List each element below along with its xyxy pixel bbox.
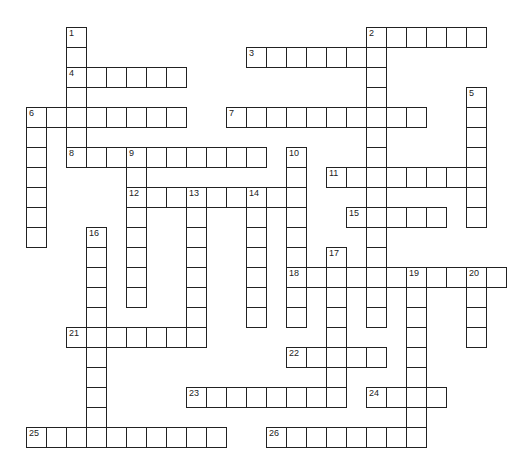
crossword-cell[interactable]: [446, 267, 467, 288]
crossword-cell[interactable]: 3: [246, 47, 267, 68]
crossword-cell[interactable]: [186, 227, 207, 248]
crossword-cell[interactable]: 1: [66, 27, 87, 48]
crossword-cell[interactable]: [26, 187, 47, 208]
crossword-cell[interactable]: [426, 27, 447, 48]
crossword-cell[interactable]: [26, 227, 47, 248]
crossword-cell[interactable]: [446, 27, 467, 48]
crossword-cell[interactable]: [166, 187, 187, 208]
crossword-cell[interactable]: [66, 127, 87, 148]
crossword-cell[interactable]: [366, 67, 387, 88]
crossword-cell[interactable]: [86, 67, 107, 88]
crossword-cell[interactable]: [166, 147, 187, 168]
crossword-cell[interactable]: [466, 307, 487, 328]
crossword-cell[interactable]: [326, 347, 347, 368]
crossword-cell[interactable]: [366, 147, 387, 168]
crossword-cell[interactable]: [86, 307, 107, 328]
crossword-cell[interactable]: [26, 147, 47, 168]
crossword-cell[interactable]: [226, 187, 247, 208]
crossword-cell[interactable]: [326, 387, 347, 408]
crossword-cell[interactable]: 26: [266, 427, 287, 448]
crossword-cell[interactable]: [66, 87, 87, 108]
crossword-cell[interactable]: [186, 247, 207, 268]
crossword-cell[interactable]: [126, 167, 147, 188]
crossword-cell[interactable]: [406, 367, 427, 388]
crossword-cell[interactable]: [446, 167, 467, 188]
crossword-cell[interactable]: [86, 247, 107, 268]
crossword-cell[interactable]: [126, 327, 147, 348]
crossword-cell[interactable]: [246, 247, 267, 268]
crossword-cell[interactable]: [366, 167, 387, 188]
crossword-cell[interactable]: [466, 27, 487, 48]
crossword-cell[interactable]: [66, 427, 87, 448]
crossword-cell[interactable]: [246, 267, 267, 288]
crossword-cell[interactable]: [86, 427, 107, 448]
crossword-cell[interactable]: [186, 327, 207, 348]
crossword-cell[interactable]: [286, 387, 307, 408]
crossword-cell[interactable]: [126, 207, 147, 228]
crossword-cell[interactable]: [406, 307, 427, 328]
crossword-cell[interactable]: [106, 67, 127, 88]
crossword-cell[interactable]: [306, 107, 327, 128]
crossword-cell[interactable]: [146, 427, 167, 448]
crossword-cell[interactable]: [406, 427, 427, 448]
crossword-cell[interactable]: [326, 367, 347, 388]
crossword-cell[interactable]: [406, 287, 427, 308]
crossword-cell[interactable]: 24: [366, 387, 387, 408]
crossword-cell[interactable]: [366, 307, 387, 328]
crossword-cell[interactable]: [346, 47, 367, 68]
crossword-cell[interactable]: [406, 207, 427, 228]
crossword-cell[interactable]: [366, 227, 387, 248]
crossword-cell[interactable]: [186, 207, 207, 228]
crossword-cell[interactable]: [146, 147, 167, 168]
crossword-cell[interactable]: [366, 187, 387, 208]
crossword-cell[interactable]: [426, 167, 447, 188]
crossword-cell[interactable]: [86, 287, 107, 308]
crossword-cell[interactable]: [426, 207, 447, 228]
crossword-cell[interactable]: 9: [126, 147, 147, 168]
crossword-cell[interactable]: 16: [86, 227, 107, 248]
crossword-cell[interactable]: [126, 287, 147, 308]
crossword-cell[interactable]: [126, 247, 147, 268]
crossword-cell[interactable]: [226, 147, 247, 168]
crossword-cell[interactable]: [26, 127, 47, 148]
crossword-cell[interactable]: 10: [286, 147, 307, 168]
crossword-cell[interactable]: [166, 107, 187, 128]
crossword-cell[interactable]: 2: [366, 27, 387, 48]
crossword-cell[interactable]: [146, 327, 167, 348]
crossword-cell[interactable]: [326, 427, 347, 448]
crossword-cell[interactable]: [246, 387, 267, 408]
crossword-cell[interactable]: [106, 147, 127, 168]
crossword-cell[interactable]: [246, 307, 267, 328]
crossword-cell[interactable]: [386, 207, 407, 228]
crossword-cell[interactable]: [286, 227, 307, 248]
crossword-cell[interactable]: [146, 67, 167, 88]
crossword-cell[interactable]: [466, 207, 487, 228]
crossword-cell[interactable]: [126, 107, 147, 128]
crossword-cell[interactable]: 13: [186, 187, 207, 208]
crossword-cell[interactable]: [206, 147, 227, 168]
crossword-cell[interactable]: [366, 127, 387, 148]
crossword-cell[interactable]: [286, 47, 307, 68]
crossword-cell[interactable]: [146, 107, 167, 128]
crossword-cell[interactable]: [186, 307, 207, 328]
crossword-cell[interactable]: [366, 347, 387, 368]
crossword-cell[interactable]: [286, 207, 307, 228]
crossword-cell[interactable]: [86, 107, 107, 128]
crossword-cell[interactable]: [466, 147, 487, 168]
crossword-cell[interactable]: 12: [126, 187, 147, 208]
crossword-cell[interactable]: [466, 127, 487, 148]
crossword-cell[interactable]: [406, 327, 427, 348]
crossword-cell[interactable]: 15: [346, 207, 367, 228]
crossword-cell[interactable]: [306, 47, 327, 68]
crossword-cell[interactable]: [246, 207, 267, 228]
crossword-cell[interactable]: 18: [286, 267, 307, 288]
crossword-cell[interactable]: [406, 387, 427, 408]
crossword-cell[interactable]: [366, 107, 387, 128]
crossword-cell[interactable]: 11: [326, 167, 347, 188]
crossword-cell[interactable]: [206, 187, 227, 208]
crossword-cell[interactable]: [246, 107, 267, 128]
crossword-cell[interactable]: [386, 387, 407, 408]
crossword-cell[interactable]: [346, 267, 367, 288]
crossword-cell[interactable]: [286, 427, 307, 448]
crossword-cell[interactable]: [266, 107, 287, 128]
